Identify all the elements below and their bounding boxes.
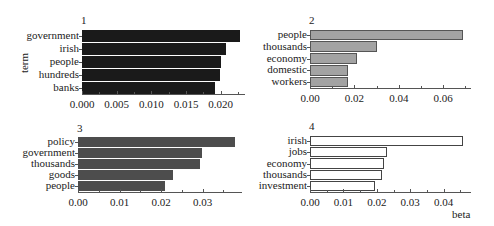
y-tick: [307, 47, 310, 48]
bar: [310, 77, 348, 88]
x-tick-label: 0.01: [334, 196, 353, 208]
x-minor-tick: [169, 92, 170, 94]
x-tick: [444, 189, 445, 192]
x-tick: [221, 91, 222, 94]
y-tick: [75, 153, 78, 154]
x-minor-tick: [99, 92, 100, 94]
x-tick-label: 0.015: [174, 98, 199, 110]
x-minor-tick: [421, 86, 422, 88]
x-axis: [82, 94, 245, 95]
y-tick: [75, 164, 78, 165]
y-tick: [79, 62, 82, 63]
panel-title: 3: [77, 122, 83, 134]
category-label: thousands: [263, 40, 307, 52]
bar: [78, 137, 235, 147]
y-tick: [307, 35, 310, 36]
bar: [78, 170, 173, 180]
bar: [310, 41, 377, 52]
category-label: economy: [267, 52, 307, 64]
y-tick: [307, 59, 310, 60]
bar: [82, 69, 220, 81]
x-tick-label: 0.04: [434, 196, 453, 208]
x-minor-tick: [223, 190, 224, 192]
bar: [82, 82, 215, 94]
category-label: workers: [272, 75, 307, 87]
x-minor-tick: [332, 86, 333, 88]
y-tick: [307, 186, 310, 187]
category-label: jobs: [289, 145, 307, 157]
x-tick-label: 0.000: [70, 98, 95, 110]
bar: [82, 43, 226, 55]
x-tick-label: 0.005: [104, 98, 129, 110]
x-tick: [377, 189, 378, 192]
x-axis: [78, 192, 242, 193]
x-minor-tick: [182, 190, 183, 192]
panel-title: 2: [309, 14, 315, 26]
x-tick: [82, 91, 83, 94]
x-tick-label: 0.02: [367, 196, 386, 208]
bar: [310, 136, 463, 146]
x-minor-tick: [203, 92, 204, 94]
x-tick-label: 0.01: [110, 196, 129, 208]
x-tick-label: 0.020: [208, 98, 233, 110]
x-minor-tick: [377, 86, 378, 88]
y-tick: [75, 142, 78, 143]
panel-title: 1: [81, 14, 87, 26]
y-tick: [307, 141, 310, 142]
category-label: banks: [53, 81, 79, 93]
bar: [78, 159, 200, 169]
y-tick: [79, 88, 82, 89]
category-label: irish: [59, 42, 79, 54]
x-minor-tick: [99, 190, 100, 192]
category-label: thousands: [31, 157, 75, 169]
bar: [310, 147, 387, 157]
x-tick-label: 0.03: [193, 196, 212, 208]
x-minor-tick: [238, 92, 239, 94]
x-minor-tick: [140, 190, 141, 192]
category-label: goods: [49, 168, 75, 180]
x-axis-title: beta: [452, 208, 470, 220]
x-tick-label: 0.02: [345, 92, 364, 104]
x-tick: [186, 91, 187, 94]
x-minor-tick: [134, 92, 135, 94]
category-label: thousands: [263, 168, 307, 180]
y-tick: [307, 175, 310, 176]
x-tick: [310, 189, 311, 192]
x-tick: [343, 189, 344, 192]
category-label: irish: [287, 134, 307, 146]
x-tick: [151, 91, 152, 94]
x-tick-label: 0.06: [434, 92, 453, 104]
x-minor-tick: [394, 190, 395, 192]
bar: [310, 53, 357, 64]
category-label: people: [50, 55, 79, 67]
x-axis: [310, 88, 471, 89]
x-tick: [310, 85, 311, 88]
category-label: hundreds: [39, 68, 79, 80]
x-tick: [399, 85, 400, 88]
x-tick-label: 0.03: [401, 196, 420, 208]
bar: [310, 158, 384, 168]
bar: [78, 181, 165, 191]
x-tick: [117, 91, 118, 94]
x-tick: [161, 189, 162, 192]
y-tick: [307, 152, 310, 153]
category-label: people: [278, 28, 307, 40]
x-tick: [120, 189, 121, 192]
bar: [82, 30, 240, 42]
x-tick-label: 0.00: [300, 92, 319, 104]
category-label: government: [22, 146, 75, 158]
x-tick: [203, 189, 204, 192]
x-tick: [78, 189, 79, 192]
x-minor-tick: [460, 190, 461, 192]
y-tick: [307, 70, 310, 71]
x-minor-tick: [465, 86, 466, 88]
bar: [310, 30, 463, 41]
x-minor-tick: [360, 190, 361, 192]
bar: [310, 170, 382, 180]
y-tick: [307, 164, 310, 165]
x-tick-label: 0.010: [139, 98, 164, 110]
x-minor-tick: [427, 190, 428, 192]
category-label: policy: [48, 135, 76, 147]
y-tick: [75, 175, 78, 176]
panel-title: 4: [309, 120, 315, 132]
